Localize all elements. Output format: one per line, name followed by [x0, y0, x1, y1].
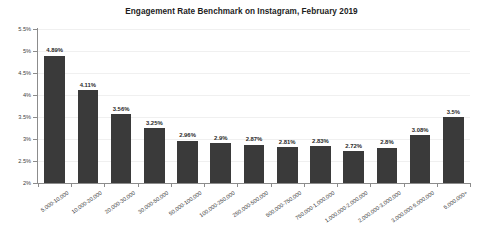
bar-value-label: 4.89%: [46, 47, 63, 53]
y-axis-tick-label: 2.5%: [0, 158, 31, 164]
bar-value-label: 3.5%: [447, 109, 460, 115]
gridline: [38, 95, 470, 96]
bar-chart: Engagement Rate Benchmark on Instagram, …: [0, 0, 483, 228]
bar-value-label: 2.87%: [246, 136, 263, 142]
plot-area: 4.89%4.11%3.56%3.25%2.96%2.9%2.87%2.81%2…: [38, 29, 470, 183]
y-axis-tick-label: 5.5%: [0, 26, 31, 32]
y-axis-tick-label: 2%: [0, 180, 31, 186]
x-axis-tick-mark: [71, 183, 72, 187]
x-axis-tick-mark: [237, 183, 238, 187]
x-axis-tick-mark: [370, 183, 371, 187]
bar-value-label: 3.08%: [412, 127, 429, 133]
x-axis-tick-mark: [38, 183, 39, 187]
bar[interactable]: [443, 117, 464, 183]
bar[interactable]: [78, 90, 99, 183]
y-axis-tick-label: 5%: [0, 48, 31, 54]
bar[interactable]: [277, 147, 298, 183]
x-axis-tick-mark: [437, 183, 438, 187]
y-axis-tick-label: 4%: [0, 92, 31, 98]
bar-value-label: 2.9%: [214, 135, 227, 141]
x-axis-tick-mark: [470, 183, 471, 187]
x-axis-tick-mark: [337, 183, 338, 187]
bar-value-label: 2.72%: [345, 143, 362, 149]
bar-value-label: 2.8%: [380, 139, 393, 145]
x-axis-line: [37, 183, 471, 184]
bar[interactable]: [177, 141, 198, 183]
bar-value-label: 2.96%: [179, 132, 196, 138]
x-axis-tick-mark: [404, 183, 405, 187]
y-axis-tick-label: 3%: [0, 136, 31, 142]
x-axis-tick-mark: [304, 183, 305, 187]
gridline: [38, 51, 470, 52]
bar[interactable]: [377, 148, 398, 183]
bar-value-label: 4.11%: [80, 82, 96, 88]
bar[interactable]: [310, 146, 331, 183]
gridline: [38, 29, 470, 30]
x-axis-tick-mark: [271, 183, 272, 187]
x-axis-tick-mark: [104, 183, 105, 187]
bar[interactable]: [111, 114, 132, 183]
x-axis-tick-mark: [138, 183, 139, 187]
bar-value-label: 3.56%: [113, 106, 130, 112]
bar[interactable]: [410, 135, 431, 183]
y-axis-tick-label: 4.5%: [0, 70, 31, 76]
bar-value-label: 2.81%: [279, 139, 296, 145]
bar[interactable]: [244, 145, 265, 183]
bar[interactable]: [44, 56, 65, 183]
chart-title: Engagement Rate Benchmark on Instagram, …: [0, 7, 483, 16]
gridline: [38, 73, 470, 74]
x-axis-tick-mark: [171, 183, 172, 187]
y-axis-tick-label: 3.5%: [0, 114, 31, 120]
x-axis-tick-mark: [204, 183, 205, 187]
bar[interactable]: [210, 143, 231, 183]
bar[interactable]: [144, 128, 165, 183]
bar-value-label: 3.25%: [146, 120, 163, 126]
bar-value-label: 2.83%: [312, 138, 329, 144]
gridline: [38, 117, 470, 118]
bar[interactable]: [343, 151, 364, 183]
